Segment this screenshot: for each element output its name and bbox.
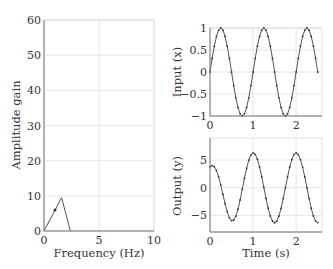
amplitude-plot	[44, 198, 70, 231]
data-point	[280, 207, 282, 209]
data-point	[222, 193, 224, 195]
data-point	[300, 159, 302, 161]
data-point	[276, 220, 278, 222]
data-point	[254, 58, 256, 60]
y-tick-label: 1	[200, 22, 207, 35]
y-tick-label: −0.5	[180, 88, 207, 101]
data-point	[297, 58, 299, 60]
data-point	[291, 159, 293, 161]
y-tick-label: 30	[27, 120, 41, 133]
data-point	[295, 71, 297, 73]
data-point	[278, 215, 280, 217]
data-point	[216, 36, 218, 38]
data-point	[282, 113, 284, 115]
data-point	[252, 71, 254, 73]
amplitude-y-ticks: 0102030405060	[27, 14, 41, 238]
data-point	[312, 215, 314, 217]
data-point	[261, 29, 263, 31]
y-tick-label: 0.5	[190, 44, 208, 57]
data-point	[276, 85, 278, 87]
data-point	[306, 187, 308, 189]
data-point	[272, 58, 274, 60]
data-point	[237, 208, 239, 210]
data-point	[218, 29, 220, 31]
data-point	[246, 107, 248, 109]
output-grid	[210, 138, 322, 232]
data-point	[278, 97, 280, 99]
data-point	[274, 222, 276, 224]
figure: 0102030405060 0510 Frequency (Hz) Amplit…	[0, 0, 333, 269]
data-point	[231, 71, 233, 73]
data-point	[248, 159, 250, 161]
data-point	[222, 29, 224, 31]
output-axes-frame	[210, 138, 322, 232]
input-ylabel: Input (x)	[170, 47, 184, 97]
data-point	[308, 198, 310, 200]
data-point	[315, 58, 317, 60]
y-tick-label: 40	[27, 84, 41, 97]
data-point	[302, 36, 304, 38]
data-point	[297, 154, 299, 156]
data-point	[310, 207, 312, 209]
data-point	[306, 27, 308, 29]
data-point	[218, 176, 220, 178]
amplitude-panel: 0102030405060 0510 Frequency (Hz) Amplit…	[9, 14, 161, 260]
data-point	[239, 113, 241, 115]
data-point	[289, 166, 291, 168]
y-tick-label: 0	[200, 182, 207, 195]
data-point	[312, 45, 314, 47]
data-point	[265, 197, 267, 199]
data-point	[272, 220, 274, 222]
data-point	[226, 211, 228, 213]
data-point	[259, 36, 261, 38]
y-tick-label: 10	[27, 190, 41, 203]
data-point	[216, 170, 218, 172]
marker-point	[54, 208, 57, 211]
data-point	[220, 184, 222, 186]
data-point	[248, 97, 250, 99]
data-point	[308, 29, 310, 31]
data-point	[239, 199, 241, 201]
series-line-gain	[44, 198, 70, 231]
data-point	[237, 107, 239, 109]
data-point	[269, 215, 271, 217]
input-grid	[210, 28, 322, 116]
data-point	[315, 220, 317, 222]
data-point	[291, 97, 293, 99]
data-point	[287, 113, 289, 115]
x-tick-label: 0	[41, 234, 48, 247]
data-point	[256, 45, 258, 47]
data-point	[263, 27, 265, 29]
data-point	[280, 107, 282, 109]
data-point	[250, 154, 252, 156]
data-point	[226, 45, 228, 47]
y-tick-label: −1	[191, 110, 207, 123]
data-point	[250, 85, 252, 87]
data-point	[267, 36, 269, 38]
data-point	[261, 176, 263, 178]
data-point	[213, 166, 215, 168]
data-point	[211, 165, 213, 167]
data-point	[317, 222, 319, 224]
data-point	[228, 58, 230, 60]
data-point	[231, 220, 233, 222]
data-point	[252, 152, 254, 154]
data-point	[244, 177, 246, 179]
x-tick-label: 0	[207, 235, 214, 248]
data-point	[235, 97, 237, 99]
data-point	[293, 154, 295, 156]
output-y-ticks: −505	[191, 154, 207, 222]
data-point	[282, 198, 284, 200]
data-point	[317, 71, 319, 73]
data-point	[284, 187, 286, 189]
data-point	[235, 215, 237, 217]
data-point	[287, 176, 289, 178]
input-y-ticks: −1−0.500.51	[180, 22, 207, 123]
x-tick-label: 2	[293, 119, 300, 132]
data-point	[300, 45, 302, 47]
output-ylabel: Output (y)	[170, 156, 184, 216]
data-point	[289, 107, 291, 109]
data-point	[269, 45, 271, 47]
input-x-ticks: 012	[207, 119, 300, 132]
x-tick-label: 10	[147, 234, 161, 247]
